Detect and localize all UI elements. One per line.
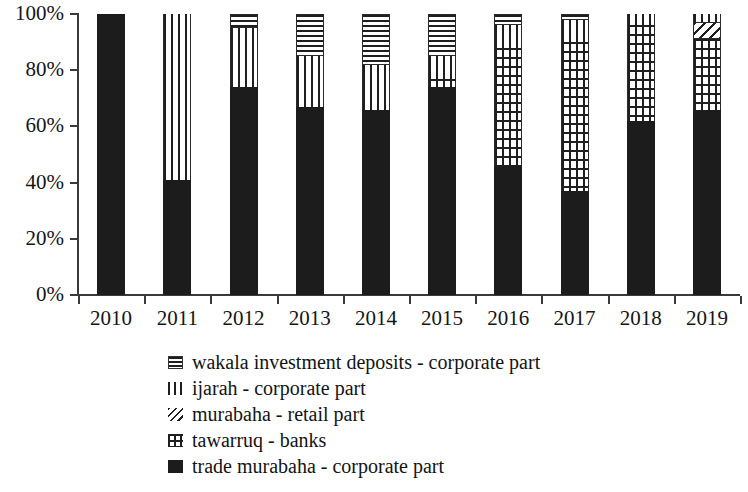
bar-segment-diagonal	[693, 22, 721, 39]
bar-segment-vertical	[163, 14, 191, 180]
bar-2014	[362, 14, 390, 295]
x-axis-tick-label: 2015	[409, 306, 475, 330]
y-axis-tick-label: 80%	[0, 59, 64, 80]
x-axis-tick-label: 2019	[674, 306, 740, 330]
x-axis-tick	[541, 296, 543, 304]
bar-segment-solid	[296, 107, 324, 295]
plot-area	[78, 14, 740, 295]
x-axis-tick	[409, 296, 411, 304]
legend-key-diagonal-lines	[168, 408, 183, 421]
legend-item: trade murabaha - corporate part	[168, 453, 638, 479]
bar-2012	[230, 14, 258, 295]
bar-segment-vertical	[561, 20, 589, 42]
y-axis-tick-label: 60%	[0, 115, 64, 136]
y-axis-tick-label: 0%	[0, 284, 64, 305]
legend-item-label: ijarah - corporate part	[192, 377, 366, 399]
x-axis-tick-label: 2011	[144, 306, 210, 330]
legend-item-label: trade murabaha - corporate part	[192, 455, 444, 477]
bar-2011	[163, 14, 191, 295]
bar-segment-vertical	[693, 14, 721, 22]
bar-segment-vertical	[230, 28, 258, 87]
legend-key-grid-lines	[168, 434, 183, 447]
bar-segment-solid	[494, 166, 522, 295]
stacked-bar-chart: 100%80%60%40%20%0% 201020112012201320142…	[0, 0, 748, 492]
legend-item-label: wakala investment deposits - corporate p…	[192, 351, 540, 373]
bar-2016	[494, 14, 522, 295]
bar-2010	[97, 14, 125, 295]
x-axis-tick-label: 2012	[211, 306, 277, 330]
x-axis-tick	[740, 296, 742, 304]
bar-segment-vertical	[428, 56, 456, 78]
legend-key-horizontal-lines	[168, 356, 183, 369]
legend-item: tawarruq - banks	[168, 427, 638, 453]
bar-segment-grid	[627, 25, 655, 121]
x-axis-tick	[78, 296, 80, 304]
x-axis-tick-label: 2017	[542, 306, 608, 330]
x-axis-tick-label: 2010	[78, 306, 144, 330]
bar-segment-horizontal	[561, 14, 589, 20]
bar-2018	[627, 14, 655, 295]
legend-item: murabaha - retail part	[168, 401, 638, 427]
bar-2013	[296, 14, 324, 295]
x-axis-tick-label: 2013	[277, 306, 343, 330]
legend-item: wakala investment deposits - corporate p…	[168, 349, 638, 375]
bar-segment-solid	[163, 180, 191, 295]
legend-item-label: tawarruq - banks	[192, 429, 326, 451]
x-axis-tick-label: 2016	[475, 306, 541, 330]
y-axis-tick-label: 20%	[0, 228, 64, 249]
bar-segment-solid	[97, 14, 125, 295]
bar-segment-vertical	[296, 56, 324, 107]
bar-segment-grid	[561, 42, 589, 191]
bar-2015	[428, 14, 456, 295]
bar-segment-horizontal	[428, 14, 456, 56]
bar-segment-vertical	[627, 14, 655, 25]
y-axis-tick-label: 100%	[0, 3, 64, 24]
x-axis-tick	[343, 296, 345, 304]
bar-segment-solid	[428, 87, 456, 295]
x-axis-tick	[210, 296, 212, 304]
bar-segment-solid	[627, 121, 655, 295]
bar-segment-horizontal	[362, 14, 390, 65]
x-axis-tick	[475, 296, 477, 304]
bar-2019	[693, 14, 721, 295]
x-axis-tick	[674, 296, 676, 304]
legend-key-vertical-lines	[168, 382, 183, 395]
bar-segment-solid	[561, 191, 589, 295]
bar-segment-horizontal	[296, 14, 324, 56]
legend-key-solid-black	[168, 460, 183, 473]
chart-legend: wakala investment deposits - corporate p…	[168, 349, 638, 479]
x-axis-tick-label: 2018	[608, 306, 674, 330]
bar-segment-grid	[428, 79, 456, 87]
y-axis-tick-label: 40%	[0, 172, 64, 193]
legend-item-label: murabaha - retail part	[192, 403, 365, 425]
bar-segment-horizontal	[230, 14, 258, 28]
legend-item: ijarah - corporate part	[168, 375, 638, 401]
bar-segment-grid	[494, 48, 522, 166]
bar-segment-solid	[693, 110, 721, 295]
bar-segment-vertical	[494, 25, 522, 47]
bar-segment-vertical	[362, 65, 390, 110]
x-axis-tick	[608, 296, 610, 304]
x-axis-tick	[277, 296, 279, 304]
bar-segment-grid	[693, 39, 721, 109]
bar-2017	[561, 14, 589, 295]
bar-segment-horizontal	[494, 14, 522, 25]
bar-segment-solid	[230, 87, 258, 295]
x-axis-tick	[144, 296, 146, 304]
x-axis-tick-label: 2014	[343, 306, 409, 330]
bar-segment-solid	[362, 110, 390, 295]
